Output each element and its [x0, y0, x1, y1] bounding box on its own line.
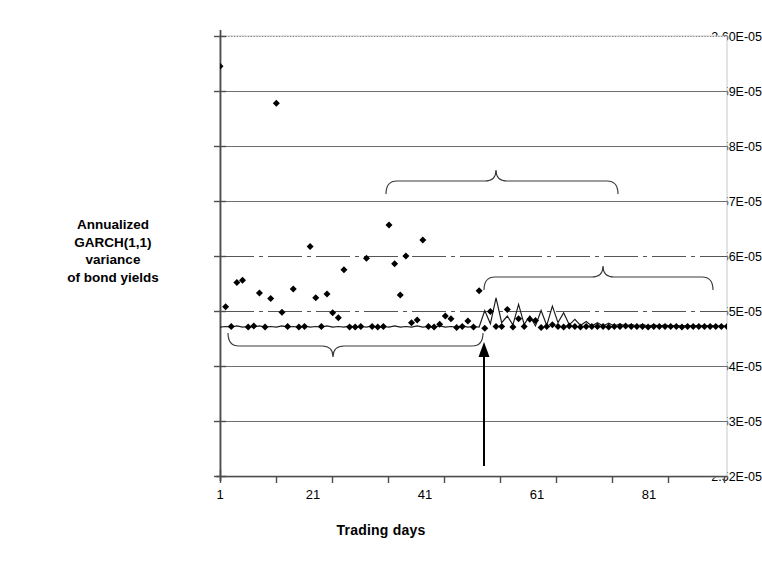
plot-canvas [0, 0, 762, 561]
chart-figure: 2.60E-05 2.59E-05 2.58E-05 2.57E-05 2.56… [0, 0, 762, 561]
